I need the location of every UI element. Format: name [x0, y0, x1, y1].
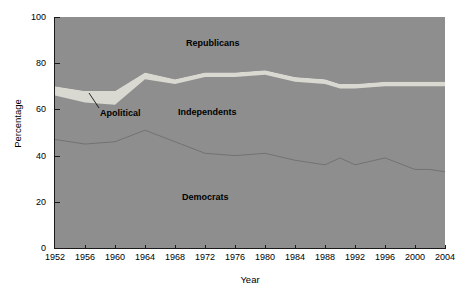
x-axis-title: Year	[215, 274, 285, 285]
y-axis-tick-label: 60	[0, 105, 46, 114]
x-axis-tick	[115, 245, 116, 249]
plot-area	[55, 17, 445, 248]
x-axis-tick	[445, 245, 446, 249]
y-axis-title: Percentage	[12, 89, 23, 159]
series-label-independents: Independents	[178, 107, 237, 117]
y-axis-tick	[55, 17, 60, 18]
x-axis-tick	[265, 245, 266, 249]
x-axis-tick	[235, 245, 236, 249]
x-axis-tick	[385, 245, 386, 249]
y-axis-line	[54, 17, 55, 249]
series-label-democrats: Democrats	[182, 192, 229, 202]
x-axis-tick-label: 2004	[425, 253, 465, 262]
stacked-area-svg	[55, 17, 445, 248]
y-axis-tick-label: 40	[0, 152, 46, 161]
x-axis-tick	[175, 245, 176, 249]
x-axis-tick	[355, 245, 356, 249]
x-axis-tick	[295, 245, 296, 249]
y-axis-tick	[55, 109, 60, 110]
x-axis-tick	[145, 245, 146, 249]
x-axis-tick	[415, 245, 416, 249]
y-axis-tick	[55, 248, 60, 249]
x-axis-tick	[205, 245, 206, 249]
chart-figure: 100806040200 195219561960196419681972197…	[0, 0, 469, 294]
y-axis-tick-label: 0	[0, 244, 46, 253]
y-axis-tick	[55, 156, 60, 157]
y-axis-tick	[55, 63, 60, 64]
x-axis-tick	[325, 245, 326, 249]
y-axis-tick	[55, 202, 60, 203]
x-axis-tick	[85, 245, 86, 249]
y-axis-tick-label: 100	[0, 13, 46, 22]
series-label-republicans: Republicans	[186, 38, 240, 48]
y-axis-tick-label: 20	[0, 198, 46, 207]
y-axis-tick-label: 80	[0, 59, 46, 68]
x-axis-line	[54, 248, 446, 249]
series-label-apolitical: Apolitical	[100, 108, 141, 118]
